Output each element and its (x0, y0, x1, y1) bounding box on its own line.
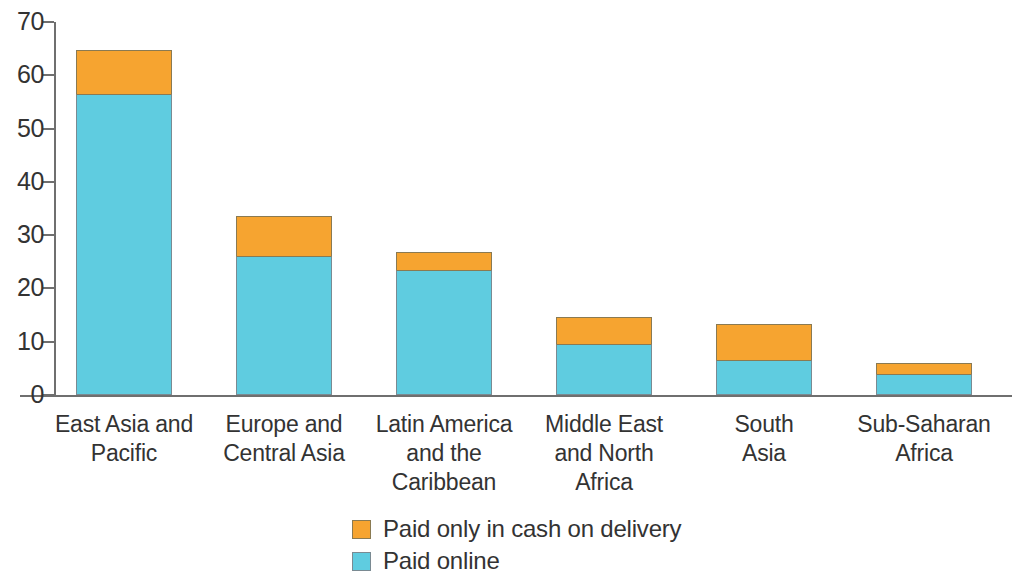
x-axis-label-5: SouthAsia (679, 410, 849, 468)
x-axis-label-line: Pacific (39, 439, 209, 468)
legend-label-cash: Paid only in cash on delivery (383, 515, 681, 543)
y-axis-line (54, 22, 56, 396)
y-axis-tick-label: 20 (0, 275, 44, 300)
x-axis-label-line: Asia (679, 439, 849, 468)
x-axis-label-4: Middle Eastand NorthAfrica (519, 410, 689, 497)
bar-segment-cash[interactable] (716, 324, 812, 360)
bar-3[interactable] (396, 252, 492, 395)
bar-segment-cash[interactable] (76, 50, 172, 94)
bar-segment-online[interactable] (236, 256, 332, 395)
bar-segment-cash[interactable] (556, 317, 652, 344)
bar-segment-cash[interactable] (236, 216, 332, 256)
y-axis-tick-label: 40 (0, 169, 44, 194)
legend-swatch-cash-icon (352, 520, 371, 539)
x-axis-label-line: South (679, 410, 849, 439)
legend-label-online: Paid online (383, 547, 500, 575)
x-axis-label-line: Caribbean (359, 468, 529, 497)
x-axis-label-line: and North (519, 439, 689, 468)
legend-item-online[interactable]: Paid online (352, 545, 681, 577)
x-axis-label-line: East Asia and (39, 410, 209, 439)
bar-segment-online[interactable] (556, 344, 652, 395)
bar-segment-online[interactable] (396, 270, 492, 395)
stacked-bar-chart: 010203040506070 East Asia andPacificEuro… (0, 0, 1017, 578)
x-axis-label-line: Africa (519, 468, 689, 497)
y-axis-tick-label: 70 (0, 9, 44, 34)
chart-legend: Paid only in cash on delivery Paid onlin… (352, 513, 681, 577)
bar-1[interactable] (76, 50, 172, 395)
bar-5[interactable] (716, 324, 812, 395)
bar-segment-online[interactable] (76, 94, 172, 395)
x-axis-label-6: Sub-SaharanAfrica (839, 410, 1009, 468)
bar-segment-cash[interactable] (396, 252, 492, 270)
y-axis-tick-label: 60 (0, 62, 44, 87)
legend-item-cash[interactable]: Paid only in cash on delivery (352, 513, 681, 545)
bar-segment-online[interactable] (716, 360, 812, 395)
bar-6[interactable] (876, 363, 972, 395)
x-axis-label-3: Latin Americaand theCaribbean (359, 410, 529, 497)
y-axis-tick-label: 10 (0, 329, 44, 354)
bar-2[interactable] (236, 216, 332, 395)
x-axis-label-line: Africa (839, 439, 1009, 468)
y-axis-tick-label: 0 (0, 382, 44, 407)
bar-4[interactable] (556, 317, 652, 395)
x-axis-label-2: Europe andCentral Asia (199, 410, 369, 468)
x-axis-label-line: and the (359, 439, 529, 468)
bar-segment-online[interactable] (876, 374, 972, 395)
x-axis-label-line: Latin America (359, 410, 529, 439)
legend-swatch-online-icon (352, 552, 371, 571)
x-axis-label-line: Sub-Saharan (839, 410, 1009, 439)
y-axis-tick-label: 30 (0, 222, 44, 247)
x-axis-label-1: East Asia andPacific (39, 410, 209, 468)
x-axis-label-line: Central Asia (199, 439, 369, 468)
x-axis-label-line: Middle East (519, 410, 689, 439)
x-axis-line (20, 395, 1012, 397)
y-axis-tick-label: 50 (0, 116, 44, 141)
x-axis-label-line: Europe and (199, 410, 369, 439)
bar-segment-cash[interactable] (876, 363, 972, 374)
